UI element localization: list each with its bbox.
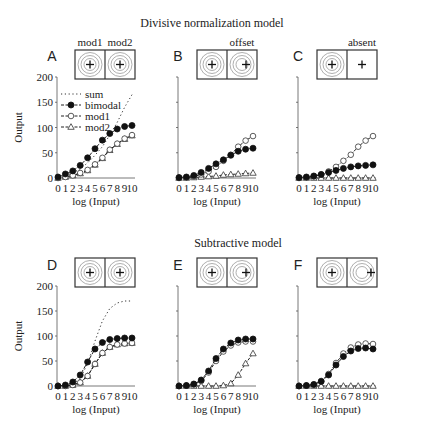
x-tick-label: 7 bbox=[348, 390, 354, 402]
open-circle-marker bbox=[68, 113, 74, 119]
x-tick-label: 8 bbox=[114, 390, 120, 402]
x-tick-label: 6 bbox=[341, 390, 347, 402]
open-triangle-marker bbox=[68, 124, 74, 130]
filled-circle-marker bbox=[250, 336, 256, 342]
x-tick-label: 6 bbox=[100, 182, 106, 194]
filled-circle-marker bbox=[296, 174, 302, 180]
filled-circle-marker bbox=[243, 336, 249, 342]
x-tick-label: 6 bbox=[221, 390, 227, 402]
panel-c: Cabsent012345678910log (Input) bbox=[293, 36, 379, 208]
filled-circle-marker bbox=[228, 340, 234, 346]
open-circle-marker bbox=[250, 133, 256, 139]
y-tick-label: 100 bbox=[37, 330, 54, 342]
filled-circle-marker bbox=[303, 383, 309, 389]
y-tick-label: 200 bbox=[37, 71, 54, 83]
filled-circle-marker bbox=[176, 383, 182, 389]
x-tick-label: 7 bbox=[228, 182, 234, 194]
filled-circle-marker bbox=[122, 335, 128, 341]
x-tick-label: 5 bbox=[333, 390, 339, 402]
x-tick-label: 7 bbox=[107, 390, 113, 402]
stimulus-diagram: mod1mod2 bbox=[75, 36, 135, 79]
filled-circle-marker bbox=[198, 377, 204, 383]
legend: sumbimodalmod1mod2 bbox=[61, 88, 121, 133]
x-axis-label: log (Input) bbox=[193, 403, 241, 416]
open-circle-marker bbox=[92, 361, 98, 367]
stimulus-diagram: offset bbox=[197, 36, 257, 79]
stimulus-diagram bbox=[197, 258, 257, 287]
open-circle-marker bbox=[114, 141, 120, 147]
y-tick-label: 150 bbox=[37, 96, 54, 108]
filled-circle-marker bbox=[70, 168, 76, 174]
x-tick-label: 0 bbox=[176, 390, 182, 402]
x-tick-label: 1 bbox=[63, 182, 69, 194]
filled-circle-marker bbox=[235, 337, 241, 343]
x-tick-label: 10 bbox=[248, 390, 260, 402]
filled-circle-marker bbox=[235, 148, 241, 154]
figure: Divisive normalization model Subtractive… bbox=[0, 0, 425, 437]
open-circle-marker bbox=[77, 170, 83, 176]
box-label-mod1: mod1 bbox=[77, 36, 102, 48]
receptive-field-ring bbox=[356, 267, 368, 279]
y-tick-label: 0 bbox=[48, 172, 54, 184]
filled-circle-marker bbox=[348, 164, 354, 170]
x-tick-label: 4 bbox=[85, 390, 91, 402]
x-tick-label: 10 bbox=[127, 182, 139, 194]
panel-letter: D bbox=[47, 257, 57, 273]
stimulus-label: absent bbox=[348, 36, 376, 48]
x-tick-label: 2 bbox=[70, 182, 76, 194]
x-tick-label: 5 bbox=[92, 390, 98, 402]
filled-circle-marker bbox=[311, 173, 317, 179]
panel-letter: C bbox=[293, 48, 303, 64]
filled-circle-marker bbox=[348, 348, 354, 354]
filled-circle-marker bbox=[355, 163, 361, 169]
filled-circle-marker bbox=[62, 382, 68, 388]
x-tick-label: 7 bbox=[107, 182, 113, 194]
x-tick-label: 8 bbox=[235, 390, 241, 402]
stimulus-label: offset bbox=[230, 36, 255, 48]
filled-circle-marker bbox=[55, 174, 61, 180]
x-tick-label: 10 bbox=[368, 182, 380, 194]
filled-circle-marker bbox=[183, 174, 189, 180]
filled-circle-marker bbox=[326, 372, 332, 378]
open-circle-marker bbox=[85, 373, 91, 379]
x-tick-label: 8 bbox=[235, 182, 241, 194]
open-triangle-marker bbox=[235, 171, 241, 177]
open-circle-marker bbox=[122, 341, 128, 347]
open-circle-marker bbox=[355, 144, 361, 150]
x-tick-label: 3 bbox=[77, 390, 83, 402]
x-tick-label: 0 bbox=[296, 390, 302, 402]
x-tick-label: 8 bbox=[355, 390, 361, 402]
open-triangle-marker bbox=[333, 175, 339, 181]
filled-circle-marker bbox=[191, 172, 197, 178]
filled-circle-marker bbox=[370, 162, 376, 168]
y-tick-label: 50 bbox=[42, 147, 54, 159]
filled-circle-marker bbox=[114, 336, 120, 342]
filled-circle-marker bbox=[77, 372, 83, 378]
x-tick-label: 5 bbox=[92, 182, 98, 194]
open-circle-marker bbox=[100, 350, 106, 356]
x-tick-label: 3 bbox=[77, 182, 83, 194]
x-tick-label: 8 bbox=[114, 182, 120, 194]
open-circle-marker bbox=[348, 152, 354, 158]
filled-circle-marker bbox=[318, 171, 324, 177]
x-tick-label: 7 bbox=[348, 182, 354, 194]
filled-circle-marker bbox=[363, 162, 369, 168]
x-tick-label: 1 bbox=[63, 390, 69, 402]
x-axis-label: log (Input) bbox=[193, 195, 241, 208]
section-title-subtractive: Subtractive model bbox=[194, 236, 282, 250]
open-triangle-marker bbox=[370, 383, 376, 389]
y-axis-label: Output bbox=[12, 321, 24, 352]
y-tick-label: 50 bbox=[42, 355, 54, 367]
filled-circle-marker bbox=[92, 346, 98, 352]
x-axis-label: log (Input) bbox=[72, 195, 120, 208]
x-tick-label: 3 bbox=[198, 390, 204, 402]
y-tick-label: 200 bbox=[37, 280, 54, 292]
x-tick-label: 6 bbox=[341, 182, 347, 194]
filled-circle-marker bbox=[220, 346, 226, 352]
open-triangle-marker bbox=[213, 383, 219, 389]
open-triangle-marker bbox=[333, 383, 339, 389]
panel-letter: B bbox=[173, 48, 182, 64]
open-circle-marker bbox=[363, 138, 369, 144]
stimulus-diagram: absent bbox=[317, 36, 377, 79]
x-tick-label: 10 bbox=[368, 390, 380, 402]
